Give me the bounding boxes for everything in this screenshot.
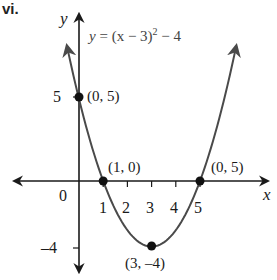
origin-label: 0	[59, 188, 67, 204]
x-tick-1: 1	[99, 200, 107, 216]
x-tick-4: 4	[170, 200, 178, 216]
equation-mid: = (x − 3)	[96, 28, 153, 44]
parabola-curve	[67, 46, 236, 247]
x-tick-2: 2	[122, 200, 130, 216]
x-ticks	[103, 181, 200, 187]
equation-tail: − 4	[158, 28, 181, 44]
point-label-x-intercept-1: (1, 0)	[108, 160, 141, 175]
point-vertex	[147, 242, 156, 251]
x-tick-3: 3	[146, 200, 154, 216]
equation-label: y = (x − 3)2 − 4	[89, 27, 181, 44]
point-label-vertex: (3, –4)	[125, 256, 165, 271]
point-y-intercept	[75, 93, 84, 102]
point-label-x-intercept-5: (0, 5)	[211, 160, 244, 175]
x-axis-label: x	[263, 186, 271, 203]
y-tick-5: 5	[53, 89, 61, 105]
point-label-y-intercept: (0, 5)	[87, 89, 120, 104]
y-tick-neg4: –4	[41, 240, 57, 256]
y-ticks	[73, 97, 79, 248]
x-tick-5: 5	[194, 200, 202, 216]
point-x-intercept-1	[99, 177, 108, 186]
point-x-intercept-5	[196, 177, 205, 186]
y-axis-label: y	[60, 10, 68, 27]
part-label: vi.	[2, 1, 19, 16]
equation-lhs: y	[89, 28, 96, 44]
